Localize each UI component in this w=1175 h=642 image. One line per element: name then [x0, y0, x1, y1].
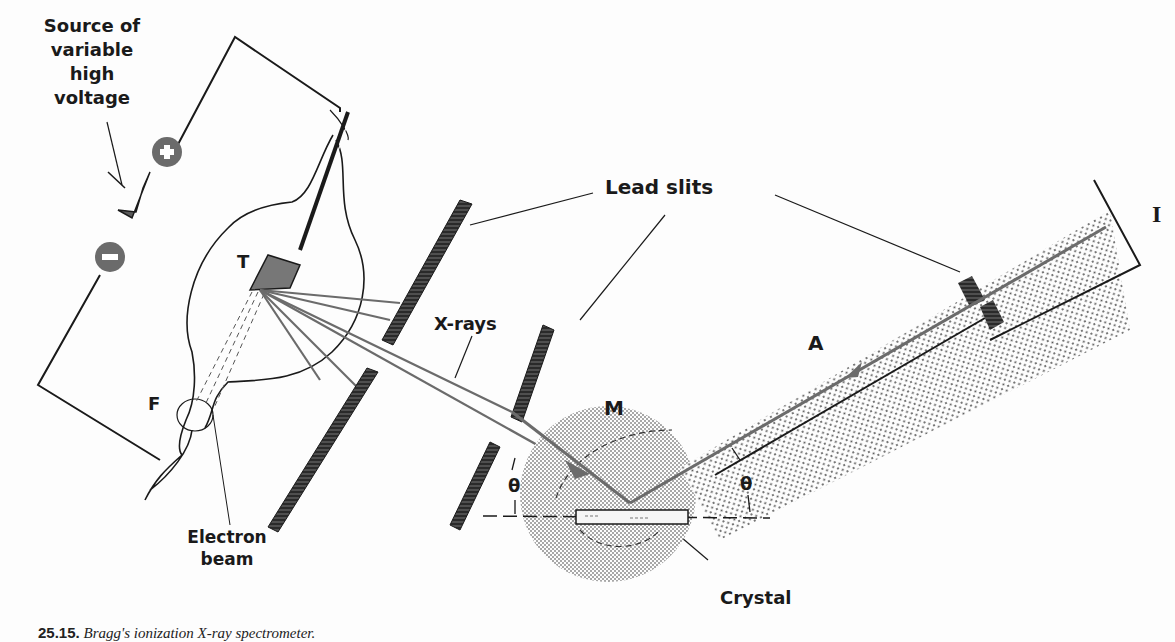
- mount-label: M: [604, 396, 624, 420]
- svg-text:Source of: Source of: [44, 15, 141, 36]
- crystal-label: Crystal: [720, 587, 791, 608]
- lead-slits-label: Lead slits: [605, 175, 713, 199]
- lead-slit-1: [268, 200, 472, 532]
- svg-text:voltage: voltage: [54, 87, 130, 108]
- theta-right-label: θ: [740, 473, 752, 494]
- svg-text:Electron: Electron: [187, 527, 266, 547]
- electron-beam: [196, 292, 264, 408]
- svg-text:high: high: [70, 63, 115, 84]
- source-leader: [107, 122, 122, 185]
- target-label: T: [237, 251, 250, 272]
- electron-beam-label: Electron beam: [187, 527, 266, 569]
- plus-terminal-icon: [152, 137, 182, 167]
- crystal-mount: [520, 406, 696, 582]
- crystal: [576, 510, 688, 524]
- chamber-label: A: [808, 331, 824, 355]
- ionization-label: I: [1152, 201, 1161, 227]
- electron-beam-leader: [213, 415, 230, 525]
- theta-left-label: θ: [508, 475, 520, 496]
- source-label: Source of variable high voltage: [44, 15, 141, 108]
- filament-label: F: [148, 393, 160, 414]
- caption-text: Bragg's ionization X-ray spectrometer.: [83, 625, 315, 641]
- svg-text:variable: variable: [51, 39, 133, 60]
- figure-caption: 25.15. Bragg's ionization X-ray spectrom…: [38, 624, 315, 642]
- svg-text:beam: beam: [201, 549, 254, 569]
- voltage-symbol-icon: [118, 172, 150, 218]
- target-anode: [250, 255, 300, 290]
- caption-number: 25.15.: [38, 624, 80, 641]
- xrays-label: X-rays: [434, 313, 497, 334]
- minus-terminal-icon: [95, 242, 125, 272]
